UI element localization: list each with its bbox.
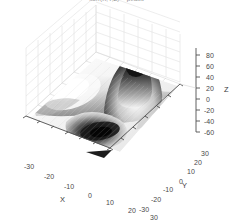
z-tick-label: 40 — [206, 74, 214, 81]
surface-shadow-wedge — [86, 150, 112, 158]
x-tick-label: -20 — [44, 173, 54, 180]
z-tick-label: 80 — [206, 52, 214, 59]
surface-canvas — [0, 0, 233, 224]
z-tick-label: 20 — [206, 85, 214, 92]
x-tick-label: -10 — [64, 183, 74, 190]
y-tick-label: 20 — [194, 159, 202, 166]
y-tick-label: -20 — [151, 196, 161, 203]
axis-z-ticks — [196, 55, 200, 132]
x-tick-label: 10 — [106, 199, 114, 206]
z-tick-label: 60 — [206, 63, 214, 70]
z-tick-label: -60 — [204, 129, 214, 136]
figure-3d-surface-plot: surf(X,Y,Z) – peaks — [0, 0, 233, 224]
z-axis-label: Z — [224, 86, 229, 94]
z-tick-label: 0 — [206, 96, 210, 103]
z-tick-label: -20 — [204, 107, 214, 114]
surface-scene — [0, 0, 233, 224]
y-tick-label: -10 — [163, 186, 173, 193]
x-tick-label: 0 — [88, 192, 92, 199]
z-tick-label: -40 — [204, 118, 214, 125]
x-tick-label: -30 — [24, 163, 34, 170]
y-tick-label: 30 — [201, 150, 209, 157]
y-tick-label: -30 — [139, 206, 149, 213]
x-tick-label: 30 — [150, 214, 158, 221]
y-axis-label: Y — [182, 182, 187, 190]
x-tick-label: 20 — [128, 207, 136, 214]
surface-mesh — [30, 56, 178, 152]
y-tick-label: 10 — [187, 168, 195, 175]
x-axis-label: X — [60, 196, 65, 204]
